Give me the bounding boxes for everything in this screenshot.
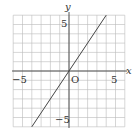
- y-axis-label: y: [64, 1, 71, 12]
- x-axis-label: x: [126, 65, 132, 76]
- x-tick-neg5: −5: [12, 74, 27, 85]
- y-tick-pos5: 5: [61, 18, 67, 29]
- coordinate-plane: y x O −5 5 5 −5: [0, 0, 133, 137]
- x-tick-pos5: 5: [111, 74, 117, 85]
- y-tick-neg5: −5: [55, 114, 70, 125]
- origin-label: O: [71, 74, 79, 85]
